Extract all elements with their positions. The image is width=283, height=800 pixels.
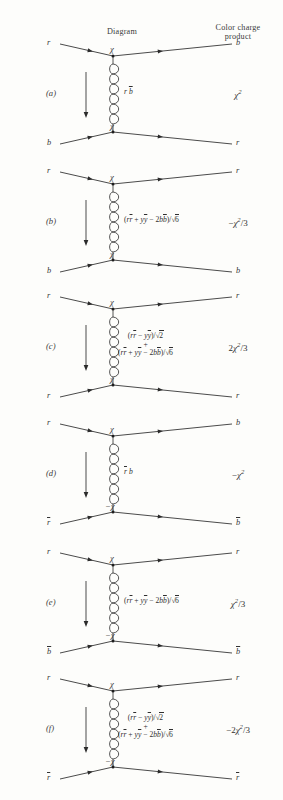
charge-denominator-c: /3 xyxy=(240,343,247,353)
color-charge-product-e: χ2/3 xyxy=(196,597,280,609)
particle-label-a-top-out: b xyxy=(236,38,240,47)
charge-exponent-d: 2 xyxy=(241,468,244,475)
particle-label-e-top-in: r xyxy=(47,547,50,556)
vertex-coupling-b-top: χ xyxy=(110,172,114,182)
color-charge-product-b: −χ2/3 xyxy=(196,216,280,228)
particle-label-b-top-out: r xyxy=(236,166,239,175)
particle-label-d-top-in: r xyxy=(47,418,50,427)
diagram-label-c: (c) xyxy=(46,341,56,351)
particle-label-c-top-out: r xyxy=(236,291,239,300)
vertex-coupling-f-bottom: −χ xyxy=(105,756,115,766)
diagram-row-e: (rr + yy − 2bb)/√6rrbbχ−χ(e)χ2/3 xyxy=(0,547,283,667)
vertex-coupling-c-bottom: χ xyxy=(110,374,114,384)
column-header-color-charge-line1: Color charge xyxy=(196,23,280,32)
diagram-row-f: (rr − yy)/√2+(rr + yy − 2bb)/√6rrrrχ−χ(f… xyxy=(0,673,283,793)
particle-label-e-bottom-in: b xyxy=(47,647,51,656)
charge-denominator-f: /3 xyxy=(243,725,250,735)
particle-label-f-top-in: r xyxy=(47,673,50,682)
diagram-row-a: r brbbrχχ(a)χ2 xyxy=(0,38,283,158)
vertex-coupling-d-top: χ xyxy=(110,424,114,434)
particle-label-a-bottom-in: b xyxy=(47,138,51,147)
diagram-label-b: (b) xyxy=(46,216,56,226)
vertex-coupling-a-top: χ xyxy=(110,44,114,54)
gluon-label-line-f-2: (rr + yy − 2bb)/√6 xyxy=(118,731,173,740)
diagram-row-c: (rr − yy)/√2+(rr + yy − 2bb)/√6rrrrχχ(c)… xyxy=(0,291,283,411)
color-charge-product-d: −χ2 xyxy=(196,468,280,480)
gluon-label-line-e-0: (rr + yy − 2bb)/√6 xyxy=(124,597,179,606)
color-charge-product-a: χ2 xyxy=(196,88,280,100)
particle-label-e-top-out: r xyxy=(236,547,239,556)
diagram-row-d: r brbrbχ−χ(d)−χ2 xyxy=(0,418,283,538)
gluon-label-line-a-0: r b xyxy=(124,88,133,97)
particle-label-a-top-in: r xyxy=(47,38,50,47)
charge-exponent-a: 2 xyxy=(238,88,241,95)
particle-label-c-bottom-out: r xyxy=(236,391,239,400)
charge-denominator-b: /3 xyxy=(241,218,248,228)
diagram-label-f: (f) xyxy=(46,723,54,733)
particle-label-f-bottom-in: r xyxy=(47,773,50,782)
particle-label-d-bottom-out: b xyxy=(236,518,240,527)
figure-page: Diagram Color charge product r brbbrχχ(a… xyxy=(0,0,283,800)
particle-label-b-bottom-out: b xyxy=(236,266,240,275)
color-charge-product-f: −2χ2/3 xyxy=(196,723,280,735)
particle-label-d-bottom-in: r xyxy=(47,518,50,527)
vertex-coupling-c-top: χ xyxy=(110,297,114,307)
gluon-state-label-b: (rr + yy − 2bb)/√6 xyxy=(124,216,179,225)
diagram-label-d: (d) xyxy=(46,468,56,478)
vertex-coupling-a-bottom: χ xyxy=(110,121,114,131)
particle-label-b-top-in: r xyxy=(47,166,50,175)
particle-label-c-top-in: r xyxy=(47,291,50,300)
column-header-diagram: Diagram xyxy=(72,27,172,36)
gluon-label-line-d-0: r b xyxy=(124,468,133,477)
particle-label-f-top-out: r xyxy=(236,673,239,682)
diagram-label-e: (e) xyxy=(46,597,56,607)
gluon-state-label-d: r b xyxy=(124,468,133,477)
gluon-state-label-c: (rr − yy)/√2+(rr + yy − 2bb)/√6 xyxy=(118,332,173,358)
particle-label-a-bottom-out: r xyxy=(236,138,239,147)
vertex-coupling-d-bottom: −χ xyxy=(105,501,115,511)
gluon-state-label-a: r b xyxy=(124,88,133,97)
diagram-row-b: (rr + yy − 2bb)/√6rrbbχχ(b)−χ2/3 xyxy=(0,166,283,286)
particle-label-c-bottom-in: r xyxy=(47,391,50,400)
gluon-label-line-c-2: (rr + yy − 2bb)/√6 xyxy=(118,349,173,358)
particle-label-d-top-out: b xyxy=(236,418,240,427)
gluon-state-label-e: (rr + yy − 2bb)/√6 xyxy=(124,597,179,606)
gluon-label-line-b-0: (rr + yy − 2bb)/√6 xyxy=(124,216,179,225)
particle-label-b-bottom-in: b xyxy=(47,266,51,275)
color-charge-product-c: 2χ2/3 xyxy=(196,341,280,353)
gluon-state-label-f: (rr − yy)/√2+(rr + yy − 2bb)/√6 xyxy=(118,714,173,740)
vertex-coupling-f-top: χ xyxy=(110,679,114,689)
charge-sign-f: −2 xyxy=(226,725,236,735)
vertex-coupling-e-top: χ xyxy=(110,553,114,563)
vertex-coupling-e-bottom: −χ xyxy=(105,630,115,640)
charge-denominator-e: /3 xyxy=(238,599,245,609)
particle-label-e-bottom-out: b xyxy=(236,647,240,656)
vertex-coupling-b-bottom: χ xyxy=(110,249,114,259)
particle-label-f-bottom-out: r xyxy=(236,773,239,782)
diagram-label-a: (a) xyxy=(46,88,56,98)
